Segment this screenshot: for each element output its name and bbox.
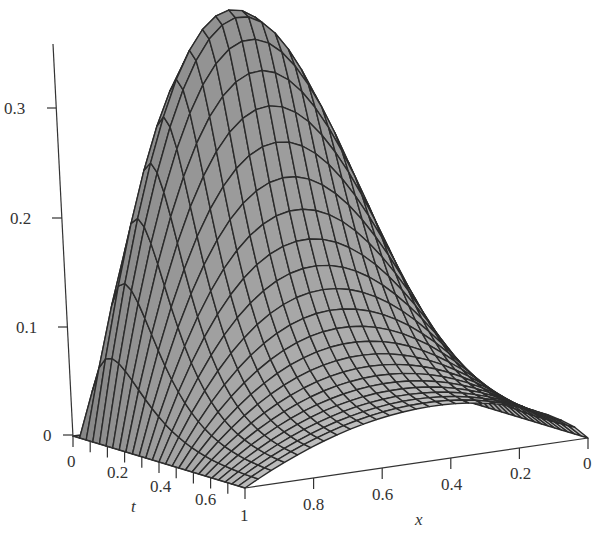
t-tick-label: 0.4 — [150, 477, 172, 496]
z-axis-line — [53, 44, 73, 437]
t-tick-label: 0 — [67, 452, 76, 471]
t-tick-label: 0.6 — [195, 490, 216, 509]
x-tick-label: 0.8 — [303, 495, 324, 514]
t-tick-label: 0.2 — [107, 463, 128, 482]
t-axis-title: t — [131, 497, 137, 516]
z-tick-label: 0.2 — [10, 209, 31, 228]
x-tick-label: 0.6 — [372, 485, 393, 504]
mesh-surface — [73, 10, 588, 488]
surface-plot: 0.3 0.2 0.1 0 0 0.2 0.4 0.6 t 1 0.8 0.6 … — [0, 0, 610, 542]
z-tick-label: 0 — [43, 426, 52, 445]
z-tick-label: 0.3 — [4, 99, 25, 118]
x-axis-title: x — [414, 510, 423, 529]
z-tick-label: 0.1 — [16, 318, 37, 337]
x-tick-label: 0.4 — [441, 475, 463, 494]
x-tick-label: 1 — [240, 506, 249, 525]
z-axis-ticks — [47, 108, 73, 435]
x-tick-label: 0.2 — [510, 464, 531, 483]
x-tick-label: 0 — [583, 454, 592, 473]
